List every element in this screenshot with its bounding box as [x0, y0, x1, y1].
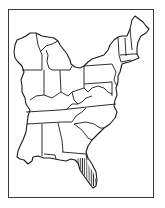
eastern-us-map	[0, 0, 165, 208]
florida-peninsula-hatched	[75, 158, 96, 186]
